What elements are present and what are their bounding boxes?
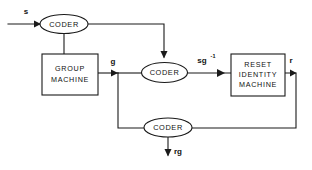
coder-input-label: CODER (49, 20, 79, 29)
arrowhead-coder-middle-top (161, 51, 168, 59)
coded-signal-exponent-label: -1 (211, 53, 216, 59)
reset-output-signal-label: r (289, 56, 292, 65)
block-diagram: CODER GROUP MACHINE CODER RESET IDENTITY… (0, 0, 312, 170)
arrowhead-reset-machine-input (217, 69, 225, 77)
reset-identity-machine-label-line1: RESET (244, 60, 271, 69)
reset-identity-machine-label-line3: MACHINE (239, 80, 277, 89)
feedback-output-signal-label: rg (174, 147, 182, 156)
group-machine-label-line1: GROUP (55, 64, 85, 73)
edge-coder-input-to-coder-middle (88, 24, 164, 57)
coded-signal-base-label: sg (197, 56, 206, 65)
arrowhead-rg-output (165, 149, 172, 157)
coder-feedback-label: CODER (153, 123, 183, 132)
diagram-canvas: CODER GROUP MACHINE CODER RESET IDENTITY… (0, 0, 312, 170)
coder-middle-label: CODER (150, 68, 180, 77)
group-machine-label-line2: MACHINE (51, 75, 89, 84)
coded-signal-label: sg -1 (197, 53, 215, 65)
group-output-signal-label: g (111, 57, 116, 66)
arrowhead-group-machine-output (111, 70, 118, 77)
input-signal-label: s (24, 7, 29, 16)
reset-identity-machine-label-line2: IDENTITY (239, 70, 277, 79)
edge-g-to-coder-feedback (118, 73, 144, 128)
